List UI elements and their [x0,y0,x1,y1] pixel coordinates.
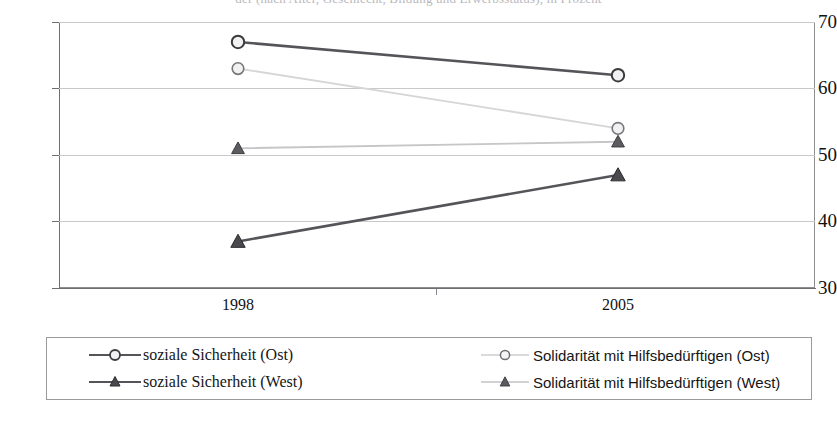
chart-page: der (nach Alter, Geschlecht, Bildung und… [0,0,837,432]
legend-marker-triangle-filled-dark [87,373,143,391]
legend-item-solidaritaet-west[interactable]: Solidarität mit Hilfsbedürftigen (West) [477,369,780,395]
series-2 [231,168,625,248]
legend-marker-circle-open-light [477,346,533,364]
legend-item-solidaritaet-ost[interactable]: Solidarität mit Hilfsbedürftigen (Ost) [477,342,770,368]
chart-legend: soziale Sicherheit (Ost) soziale Sicherh… [46,337,812,400]
legend-label: Solidarität mit Hilfsbedürftigen (Ost) [533,347,770,364]
legend-label: soziale Sicherheit (Ost) [143,346,293,364]
legend-item-soziale-sicherheit-west[interactable]: soziale Sicherheit (West) [87,369,303,395]
series-0 [232,36,624,82]
legend-label: Solidarität mit Hilfsbedürftigen (West) [533,374,780,391]
legend-label: soziale Sicherheit (West) [143,373,303,391]
series-3 [232,135,625,153]
legend-marker-triangle-filled-light [477,373,533,391]
series-1 [232,63,624,134]
legend-item-soziale-sicherheit-ost[interactable]: soziale Sicherheit (Ost) [87,342,293,368]
legend-marker-circle-open-dark [87,346,143,364]
